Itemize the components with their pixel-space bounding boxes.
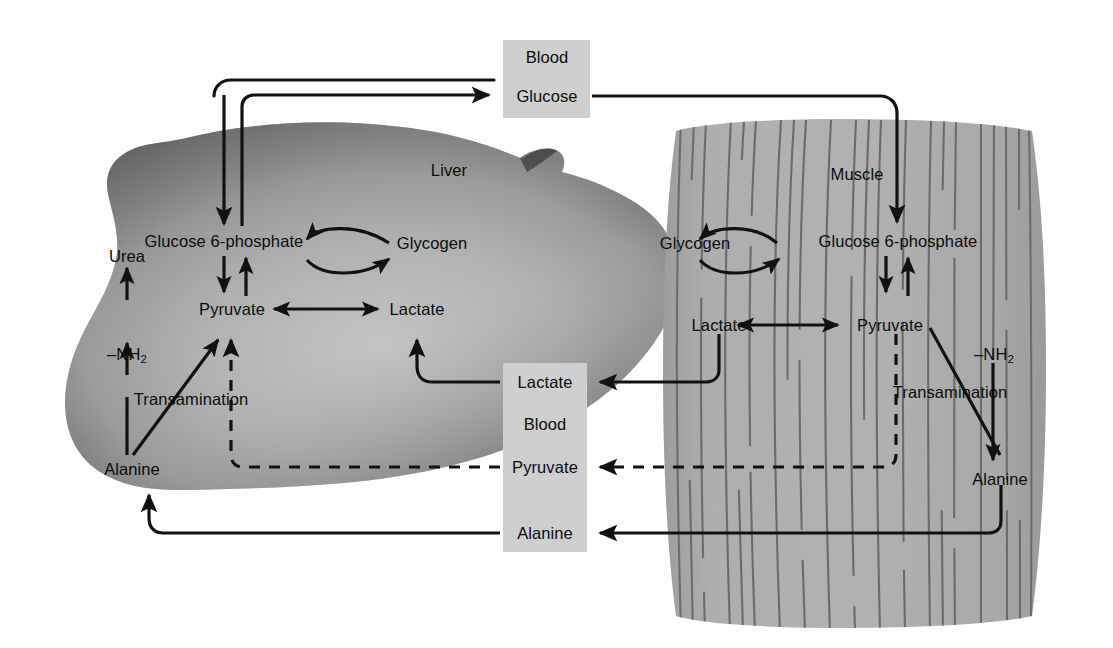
blood-top-header: Blood	[526, 48, 569, 67]
muscle-glycogen-label: Glycogen	[660, 234, 731, 253]
blood-pyruvate-label: Pyruvate	[512, 458, 578, 477]
glucose-alanine-cycle-diagram: Blood Glucose Lactate Blood Pyruvate Ala…	[0, 0, 1113, 648]
muscle-organ-label: Muscle	[831, 165, 884, 184]
blood-lactate-label: Lactate	[518, 373, 573, 392]
liver-glycogen-label: Glycogen	[397, 234, 468, 253]
muscle-nh2-text: –NH	[974, 345, 1007, 363]
liver-nh2-text: –NH	[107, 345, 140, 363]
muscle-alanine-label: Alanine	[972, 470, 1028, 489]
arrow-blood-alanine-to-liver-alanine	[149, 495, 500, 533]
liver-urea-label: Urea	[109, 247, 145, 266]
muscle-lactate-label: Lactate	[692, 316, 747, 335]
liver-organ-label: Liver	[431, 161, 467, 180]
muscle-transamination-label: Transamination	[893, 383, 1008, 402]
blood-glucose-label: Glucose	[516, 87, 577, 106]
liver-nh2-label: –NH2	[107, 345, 147, 365]
blood-alanine-label: Alanine	[517, 524, 573, 543]
liver-transamination-label: Transamination	[134, 390, 249, 409]
liver-pyruvate-label: Pyruvate	[199, 300, 265, 319]
liver-g6p-label: Glucose 6-phosphate	[145, 232, 304, 251]
liver-lactate-label: Lactate	[390, 300, 445, 319]
muscle-g6p-label: Glucose 6-phosphate	[819, 232, 978, 251]
blood-bottom-header: Blood	[524, 415, 567, 434]
muscle-organ-shape	[663, 119, 1046, 632]
liver-nh2-subscript: 2	[140, 353, 147, 365]
liver-alanine-label: Alanine	[104, 460, 160, 479]
muscle-nh2-subscript: 2	[1007, 353, 1014, 365]
muscle-pyruvate-label: Pyruvate	[857, 316, 923, 335]
muscle-nh2-label: –NH2	[974, 345, 1014, 365]
